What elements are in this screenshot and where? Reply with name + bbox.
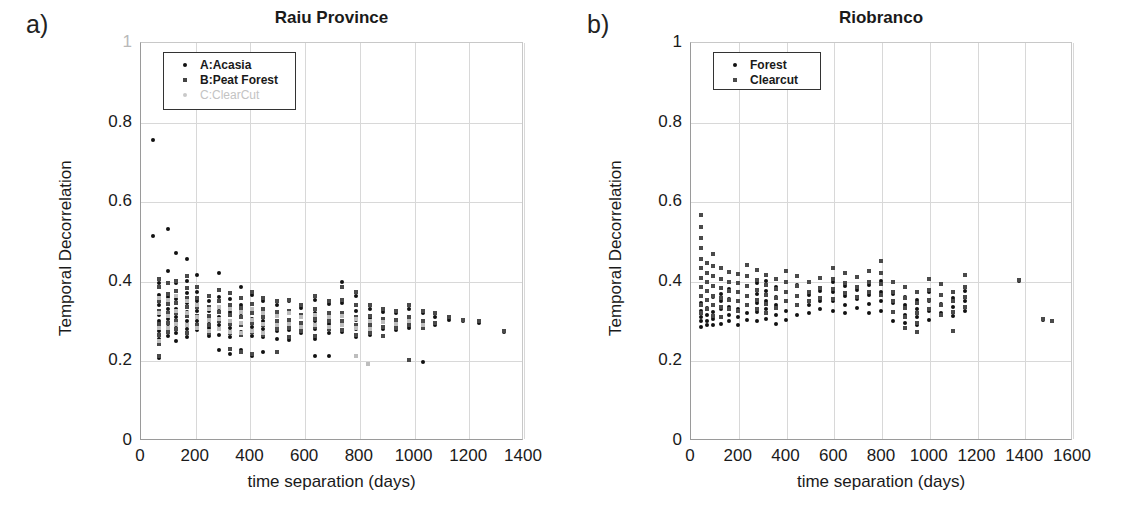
panel-a-title: Raiu Province (140, 8, 523, 28)
gridline-horizontal (691, 361, 1071, 362)
legend-item: A:Acasia (170, 57, 287, 72)
ytick-label: 0 (80, 430, 132, 450)
legend-marker-square-icon (170, 78, 200, 82)
ytick-label: 0.8 (630, 112, 682, 132)
legend-label: A:Acasia (200, 58, 251, 72)
ytick-label: 0.2 (80, 350, 132, 370)
ytick-label: 1 (630, 32, 682, 52)
xtick-label: 0 (135, 446, 144, 466)
ytick-label: 0.6 (80, 191, 132, 211)
xtick-label: 400 (235, 446, 263, 466)
xtick-label: 600 (819, 446, 847, 466)
xtick-label: 1000 (910, 446, 948, 466)
xtick-label: 1600 (1053, 446, 1091, 466)
gridline-vertical (834, 43, 835, 439)
gridline-vertical (930, 43, 931, 439)
panel-b-yaxis-title: Temporal Decorrelation (606, 160, 626, 336)
gridline-horizontal (141, 123, 522, 124)
gridline-vertical (739, 43, 740, 439)
xtick-label: 400 (771, 446, 799, 466)
panel-b-legend: ForestClearcut (713, 52, 821, 90)
legend-item: Clearcut (720, 72, 812, 87)
legend-label: Forest (750, 58, 787, 72)
panel-a-yaxis-title: Temporal Decorrelation (56, 160, 76, 336)
xtick-label: 600 (290, 446, 318, 466)
gridline-vertical (524, 43, 525, 439)
xtick-label: 800 (867, 446, 895, 466)
gridline-horizontal (141, 202, 522, 203)
ytick-label: 0.6 (630, 191, 682, 211)
legend-label: C:ClearCut (200, 88, 259, 102)
gridline-vertical (1073, 43, 1074, 439)
ytick-label: 0 (630, 430, 682, 450)
panel-a-label: a) (26, 10, 48, 39)
gridline-horizontal (691, 282, 1071, 283)
panel-b-label: b) (587, 10, 609, 39)
legend-item: C:ClearCut (170, 87, 287, 102)
gridline-horizontal (141, 361, 522, 362)
gridline-vertical (360, 43, 361, 439)
xtick-label: 200 (724, 446, 752, 466)
gridline-vertical (787, 43, 788, 439)
gridline-vertical (1025, 43, 1026, 439)
gridline-vertical (978, 43, 979, 439)
ytick-label: 0.4 (630, 271, 682, 291)
legend-item: B:Peat Forest (170, 72, 287, 87)
legend-marker-dot-icon (720, 63, 750, 67)
gridline-vertical (882, 43, 883, 439)
gridline-vertical (469, 43, 470, 439)
panel-a-legend: A:AcasiaB:Peat ForestC:ClearCut (163, 52, 296, 110)
legend-label: B:Peat Forest (200, 73, 278, 87)
xtick-label: 200 (181, 446, 209, 466)
legend-marker-dot-icon (170, 63, 200, 67)
xtick-label: 0 (685, 446, 694, 466)
gridline-horizontal (691, 123, 1071, 124)
panel-b-title: Riobranco (690, 8, 1072, 28)
gridline-vertical (305, 43, 306, 439)
panel-b: b) Riobranco 020040060080010001200140016… (565, 0, 1127, 509)
figure-container: a) Raiu Province 02004006008001000120014… (0, 0, 1127, 509)
panel-b-xaxis-title: time separation (days) (690, 472, 1072, 492)
legend-label: Clearcut (750, 73, 798, 87)
gridline-horizontal (141, 282, 522, 283)
panel-b-plot-area (690, 42, 1072, 440)
xtick-label: 1200 (449, 446, 487, 466)
xtick-label: 800 (345, 446, 373, 466)
panel-a-xaxis-title: time separation (days) (140, 472, 523, 492)
legend-marker-square-icon (720, 78, 750, 82)
xtick-label: 1000 (395, 446, 433, 466)
ytick-label: 0.8 (80, 112, 132, 132)
gridline-horizontal (691, 202, 1071, 203)
xtick-label: 1400 (504, 446, 542, 466)
xtick-label: 1400 (1005, 446, 1043, 466)
gridline-vertical (415, 43, 416, 439)
xtick-label: 1200 (958, 446, 996, 466)
panel-a: a) Raiu Province 02004006008001000120014… (0, 0, 580, 509)
ytick-label: 0.4 (80, 271, 132, 291)
legend-item: Forest (720, 57, 812, 72)
ytick-label: 0.2 (630, 350, 682, 370)
legend-marker-dot-icon (170, 93, 200, 97)
ytick-label: 1 (80, 32, 132, 52)
